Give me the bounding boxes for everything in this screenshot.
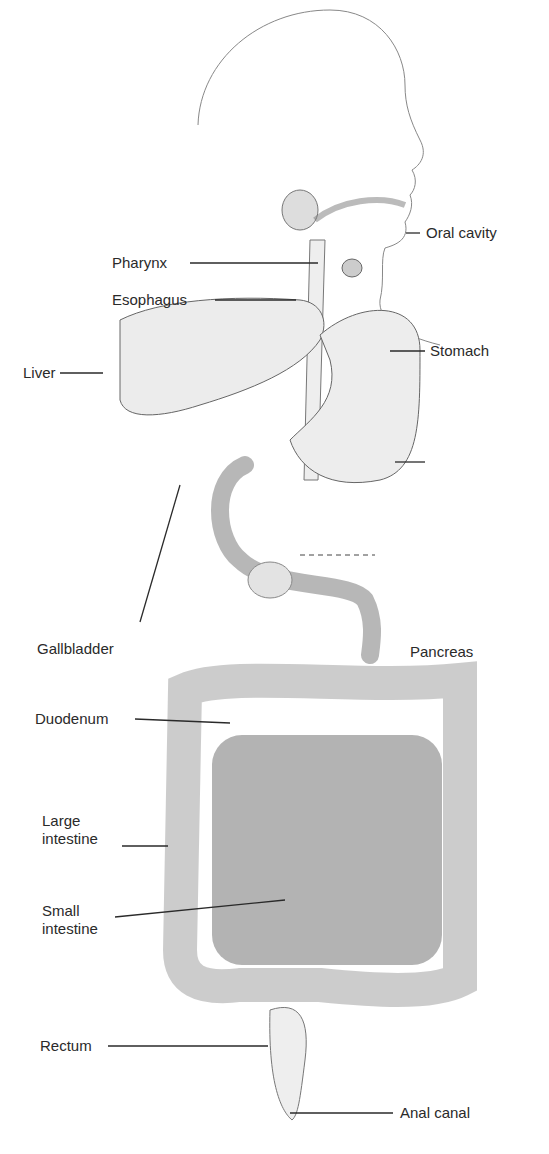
label-esophagus: Esophagus xyxy=(112,291,187,309)
label-rectum: Rectum xyxy=(40,1037,92,1055)
label-liver: Liver xyxy=(23,364,56,382)
duodenum-shape xyxy=(220,465,372,655)
label-pharynx: Pharynx xyxy=(112,254,167,272)
label-anal-canal: Anal canal xyxy=(400,1104,470,1122)
label-gallbladder: Gallbladder xyxy=(37,640,114,658)
rectum-shape xyxy=(270,1007,306,1120)
label-pancreas: Pancreas xyxy=(410,643,473,661)
digestive-system-illustration xyxy=(0,0,549,1154)
label-duodenum: Duodenum xyxy=(35,710,108,728)
liver-shape xyxy=(120,298,324,415)
label-oral-cavity: Oral cavity xyxy=(426,224,497,242)
label-small-intestine: Small intestine xyxy=(42,902,122,938)
label-large-intestine: Large intestine xyxy=(42,812,122,848)
small-intestine-shape xyxy=(212,735,442,965)
label-stomach: Stomach xyxy=(430,342,489,360)
